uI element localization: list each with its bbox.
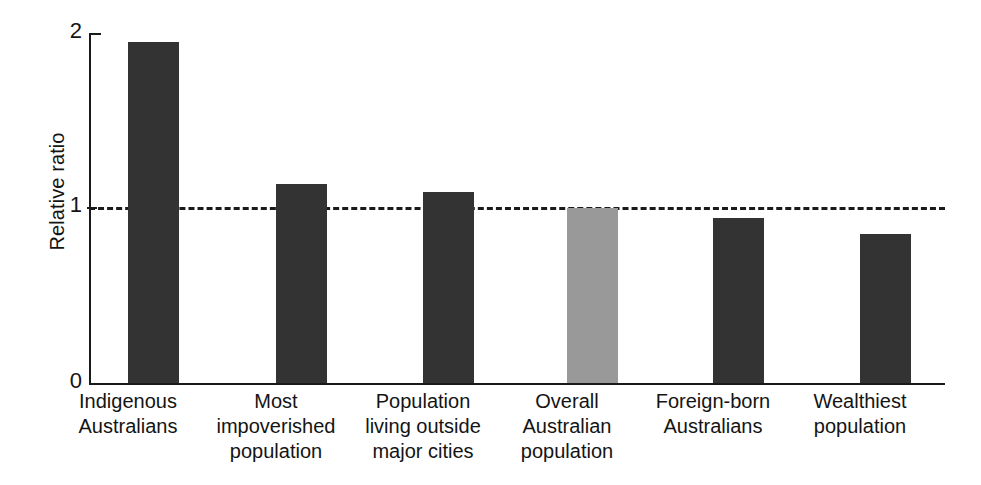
bar-5[interactable] (713, 218, 764, 383)
x-category-label-4-line-3: population (492, 439, 642, 464)
x-category-label-1-line-2: Australians (53, 414, 203, 439)
x-category-label-5-line-1: Foreign-born (638, 389, 788, 414)
x-category-label-3-line-2: living outside (348, 414, 498, 439)
x-category-label-2: Mostimpoverishedpopulation (201, 389, 351, 464)
x-category-label-1: IndigenousAustralians (53, 389, 203, 439)
x-category-label-1-line-1: Indigenous (53, 389, 203, 414)
bar-2[interactable] (276, 184, 327, 383)
x-category-label-5: Foreign-bornAustralians (638, 389, 788, 439)
bar-4[interactable] (567, 208, 618, 383)
x-axis-category-labels: IndigenousAustraliansMostimpoverishedpop… (89, 389, 969, 485)
bar-3[interactable] (423, 192, 474, 383)
x-category-label-6-line-1: Wealthiest (785, 389, 935, 414)
bars-group (89, 30, 947, 385)
x-category-label-2-line-1: Most (201, 389, 351, 414)
bar-6[interactable] (860, 234, 911, 383)
x-category-label-4-line-2: Australian (492, 414, 642, 439)
x-category-label-2-line-3: population (201, 439, 351, 464)
x-category-label-3-line-3: major cities (348, 439, 498, 464)
y-tick-label-2: 2 (52, 18, 82, 44)
plot-area (89, 30, 947, 385)
x-category-label-4-line-1: Overall (492, 389, 642, 414)
x-category-label-2-line-2: impoverished (201, 414, 351, 439)
x-category-label-5-line-2: Australians (638, 414, 788, 439)
x-category-label-6: Wealthiestpopulation (785, 389, 935, 439)
bar-chart-figure: Relative ratio 2 1 0 IndigenousAustralia… (0, 0, 981, 485)
x-category-label-3: Populationliving outsidemajor cities (348, 389, 498, 464)
x-category-label-4: OverallAustralianpopulation (492, 389, 642, 464)
y-tick-label-1: 1 (52, 192, 82, 218)
x-category-label-6-line-2: population (785, 414, 935, 439)
x-category-label-3-line-1: Population (348, 389, 498, 414)
bar-1[interactable] (128, 42, 179, 383)
